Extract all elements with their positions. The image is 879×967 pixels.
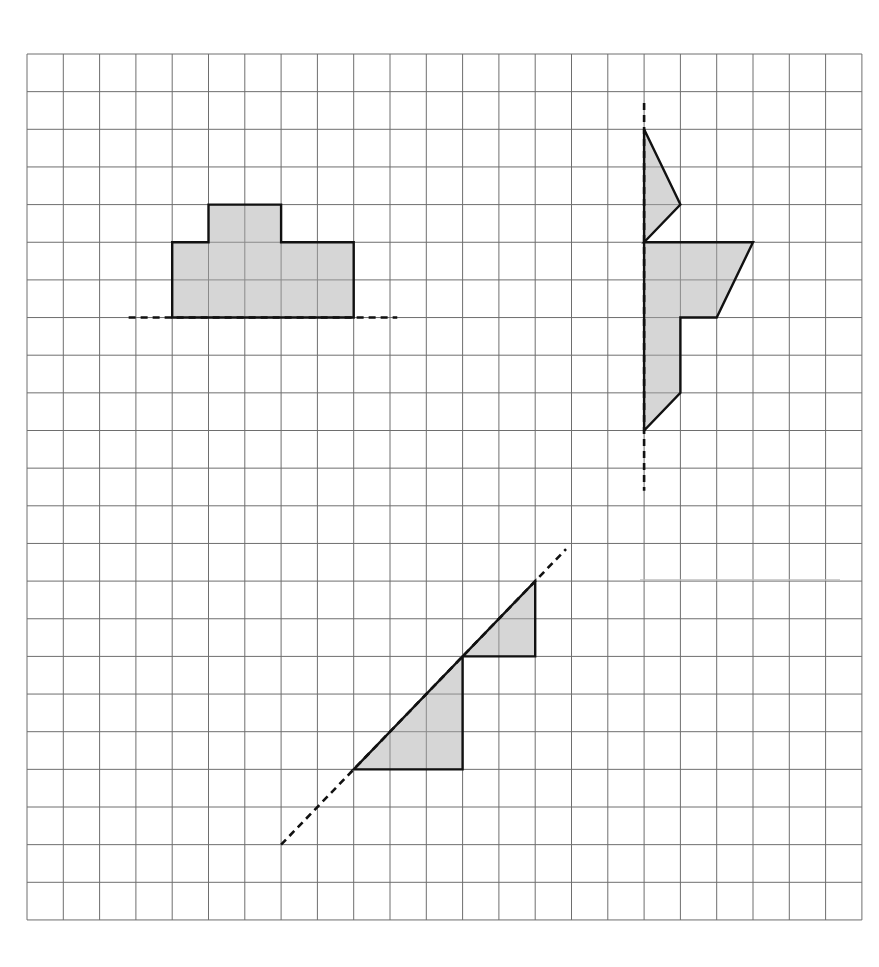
shape-inner-grid — [27, 54, 862, 920]
shape-top-right — [27, 54, 862, 920]
square-grid — [27, 54, 862, 920]
shape-inner-grid — [27, 54, 862, 920]
shape-bottom — [27, 54, 862, 920]
mirror-lines-layer — [129, 103, 644, 845]
shape-top-left — [27, 54, 862, 920]
mirror-line-diagonal — [281, 549, 566, 845]
shape-inner-grid — [27, 54, 862, 920]
shape-fill — [172, 205, 354, 318]
shapes-layer — [27, 54, 862, 920]
grid-diagram — [0, 0, 879, 967]
